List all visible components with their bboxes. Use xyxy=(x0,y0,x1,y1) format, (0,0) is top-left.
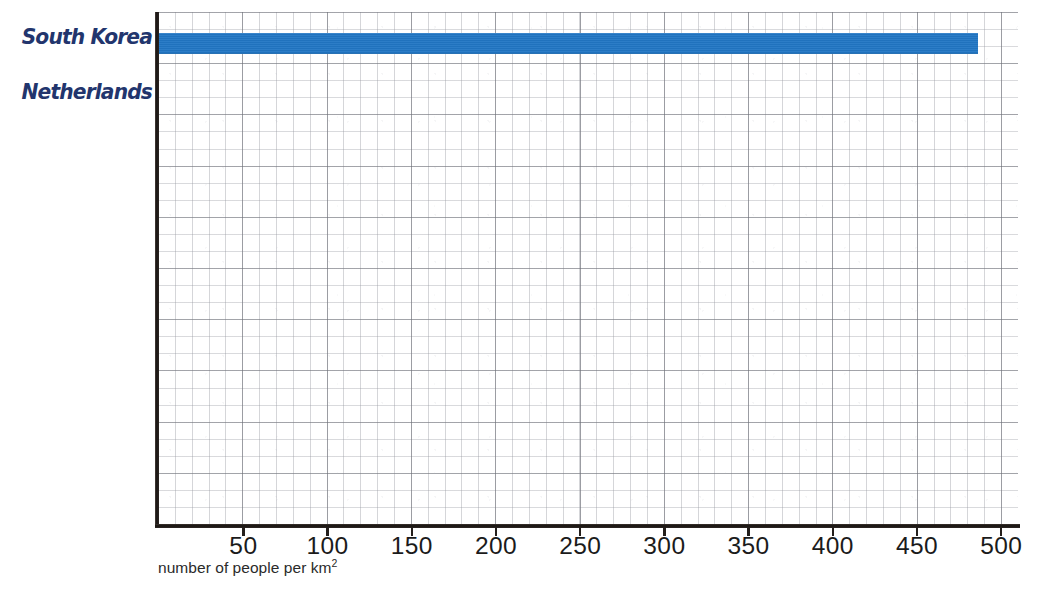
x-axis-line xyxy=(155,524,1020,528)
x-axis-title-text: number of people per km xyxy=(158,559,331,576)
y-axis-line xyxy=(155,12,159,528)
x-tick-label-250: 250 xyxy=(535,532,625,560)
category-label-south-korea: South Korea xyxy=(9,24,152,49)
paper-texture xyxy=(158,12,1018,525)
bar-south-korea xyxy=(158,33,978,54)
x-tick-label-350: 350 xyxy=(704,532,794,560)
category-axis-labels: South Korea Netherlands xyxy=(0,0,152,525)
x-tick-label-300: 300 xyxy=(619,532,709,560)
x-tick-label-150: 150 xyxy=(367,532,457,560)
bar-chart: South Korea Netherlands 50 100 150 200 2… xyxy=(0,0,1043,597)
category-label-netherlands: Netherlands xyxy=(9,79,152,104)
x-axis-title-superscript: 2 xyxy=(331,557,337,569)
plot-area xyxy=(158,12,1018,525)
x-tick-label-500: 500 xyxy=(956,532,1043,560)
x-tick-label-100: 100 xyxy=(283,532,373,560)
x-tick-label-200: 200 xyxy=(451,532,541,560)
x-axis-title: number of people per km2 xyxy=(158,559,337,577)
x-tick-label-450: 450 xyxy=(872,532,962,560)
x-tick-label-400: 400 xyxy=(788,532,878,560)
x-tick-label-50: 50 xyxy=(198,532,288,560)
